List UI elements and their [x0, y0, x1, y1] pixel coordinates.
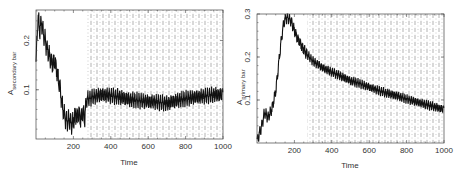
x-tick-label: 1000 [435, 146, 453, 155]
x-tick-label: 1000 [214, 142, 232, 151]
left-x-axis-title: Time [120, 158, 138, 167]
right-panel: 2004006008001000 0.10.20.3 Time Aprimary… [235, 8, 453, 170]
right-shaded-region [307, 14, 444, 143]
y-tick-label: 0.2 [22, 34, 31, 46]
x-tick-label: 400 [104, 142, 118, 151]
y-tick-label: 0.1 [22, 84, 31, 96]
y-tick-label: 0.2 [243, 51, 252, 63]
x-tick-label: 200 [288, 146, 302, 155]
x-tick-label: 600 [142, 142, 156, 151]
y-tick-label: 0.3 [243, 8, 252, 20]
left-panel: 2004006008001000 0.10.2 Time Asecondary … [6, 10, 232, 167]
x-tick-label: 400 [325, 146, 339, 155]
right-x-axis-title: Time [341, 161, 359, 170]
x-tick-label: 800 [400, 146, 414, 155]
left-shaded-region [86, 10, 223, 139]
right-y-axis-title: Aprimary bar [235, 69, 246, 105]
x-tick-label: 200 [67, 142, 81, 151]
x-tick-label: 800 [179, 142, 193, 151]
left-y-axis-title: Asecondary bar [6, 52, 17, 95]
figure: 2004006008001000 0.10.2 Time Asecondary … [0, 0, 466, 173]
x-tick-label: 600 [363, 146, 377, 155]
